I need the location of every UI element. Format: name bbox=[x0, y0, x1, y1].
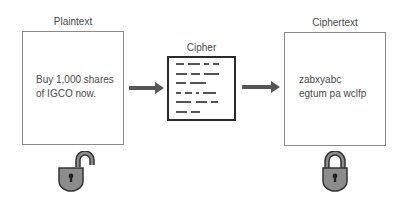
plaintext-line-2: of IGCO now. bbox=[36, 87, 114, 101]
ciphertext-line-2: egtum pa wclfp bbox=[299, 87, 366, 101]
cipher-dash bbox=[191, 111, 200, 113]
cipher-dash bbox=[204, 73, 219, 75]
cipher-dash bbox=[176, 63, 184, 65]
locked-padlock-icon bbox=[321, 151, 349, 192]
cipher-dash bbox=[203, 92, 216, 94]
cipher-dash bbox=[196, 92, 199, 94]
cipher-scrambled-lines bbox=[176, 63, 228, 115]
unlocked-padlock-icon bbox=[57, 151, 99, 192]
cipher-dash bbox=[176, 82, 186, 84]
plaintext-document: Buy 1,000 shares of IGCO now. bbox=[22, 31, 124, 145]
cipher-dash bbox=[213, 63, 219, 65]
cipher-label: Cipher bbox=[167, 42, 236, 53]
plaintext-line-1: Buy 1,000 shares bbox=[36, 73, 114, 87]
cipher-dash bbox=[176, 73, 187, 75]
cipher-dash bbox=[196, 101, 207, 103]
cipher-dash bbox=[188, 63, 200, 65]
plaintext-label: Plaintext bbox=[22, 16, 124, 27]
cipher-dash bbox=[211, 101, 218, 103]
cipher-dash bbox=[190, 82, 206, 84]
right-arrow-icon bbox=[129, 82, 164, 94]
cipher-dash bbox=[204, 63, 209, 65]
right-arrow-icon bbox=[242, 81, 280, 93]
cipher-dash bbox=[176, 111, 187, 113]
ciphertext-message: zabxyabc egtum pa wclfp bbox=[299, 73, 366, 101]
cipher-dash bbox=[176, 101, 191, 103]
cipher-dash bbox=[176, 92, 181, 94]
plaintext-message: Buy 1,000 shares of IGCO now. bbox=[36, 73, 114, 101]
ciphertext-document: zabxyabc egtum pa wclfp bbox=[284, 32, 386, 146]
ciphertext-line-1: zabxyabc bbox=[299, 73, 366, 87]
cipher-dash bbox=[191, 73, 200, 75]
ciphertext-label: Ciphertext bbox=[284, 17, 386, 28]
cipher-dash bbox=[185, 92, 192, 94]
cipher-box bbox=[167, 56, 236, 121]
